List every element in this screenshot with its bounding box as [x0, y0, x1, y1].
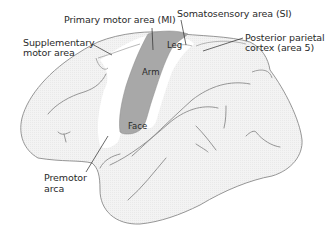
label-arm: Arm — [142, 67, 159, 77]
label-supplementary-motor-area-2: motor area — [23, 48, 75, 58]
label-face: Face — [128, 121, 147, 131]
label-leg: Leg — [167, 40, 182, 50]
label-somatosensory-area: Somatosensory area (SI) — [177, 9, 292, 19]
label-primary-motor-area: Primary motor area (MI) — [64, 15, 176, 25]
label-premotor-area-2: arca — [44, 184, 64, 194]
label-premotor-area-1: Premotor — [44, 173, 87, 183]
label-posterior-parietal-2: cortex (area 5) — [245, 43, 314, 53]
